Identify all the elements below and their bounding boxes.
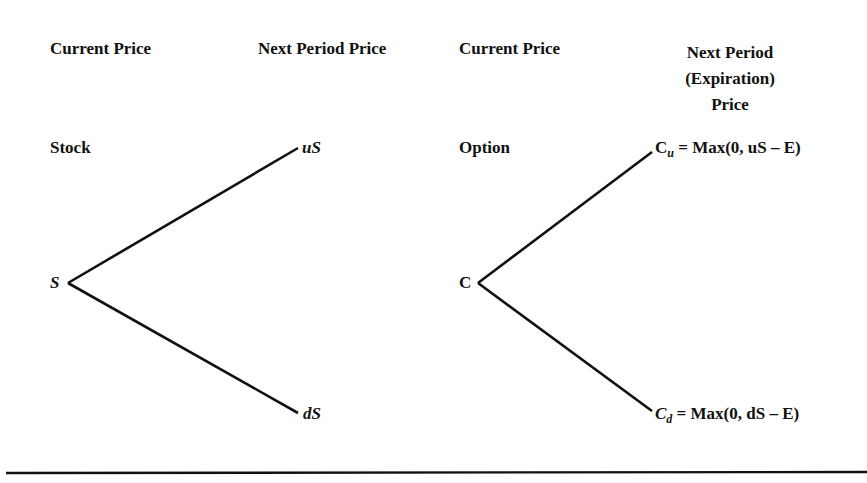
option-next-header-line1: Next Period: [650, 40, 810, 66]
stock-up-branch: [68, 148, 298, 283]
option-next-price-header: Next Period (Expiration) Price: [650, 40, 810, 118]
stock-next-price-header: Next Period Price: [258, 40, 386, 57]
option-down-branch: [478, 283, 652, 411]
option-down-node: Cd = Max(0, dS – E): [655, 405, 799, 425]
stock-up-node: uS: [302, 139, 321, 156]
option-down-formula: = Max(0, dS – E): [677, 404, 800, 423]
option-down-symbol: C: [655, 404, 666, 423]
stock-root-node: S: [50, 274, 59, 291]
bottom-rule: [6, 472, 867, 473]
option-root-node: C: [459, 274, 471, 291]
option-up-node: Cu = Max(0, uS – E): [655, 139, 801, 159]
stock-current-price-header: Current Price: [50, 40, 151, 57]
option-up-branch: [478, 152, 652, 283]
option-down-subscript: d: [666, 412, 672, 426]
option-up-symbol: C: [655, 138, 667, 157]
stock-label: Stock: [50, 139, 91, 156]
stock-down-branch: [68, 283, 298, 413]
option-next-header-line3: Price: [650, 92, 810, 118]
option-current-price-header: Current Price: [459, 40, 560, 57]
stock-down-node: dS: [303, 405, 321, 422]
option-next-header-line2: (Expiration): [650, 66, 810, 92]
option-up-formula: = Max(0, uS – E): [678, 138, 801, 157]
option-up-subscript: u: [667, 146, 674, 160]
option-label: Option: [459, 139, 510, 156]
